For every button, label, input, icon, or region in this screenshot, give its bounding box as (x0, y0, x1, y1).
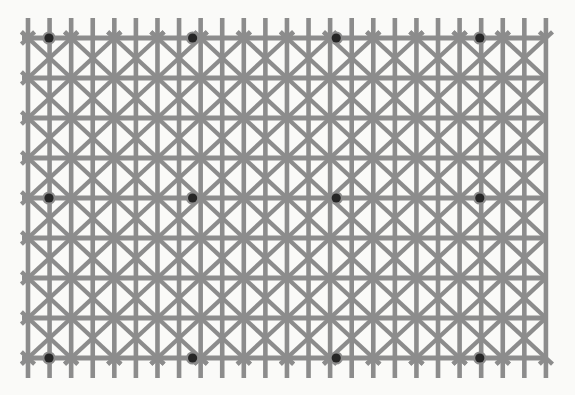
grid-dot-r1-c0 (44, 193, 53, 202)
grid-dot-r0-c2 (332, 33, 341, 42)
grid-dot-r1-c1 (188, 193, 197, 202)
grid-dot-r0-c0 (44, 33, 53, 42)
grid-dot-r2-c2 (332, 353, 341, 362)
grid-dot-r0-c1 (188, 33, 197, 42)
grid-dot-r2-c1 (188, 353, 197, 362)
grid-dot-r1-c2 (332, 193, 341, 202)
grid-dot-r2-c3 (475, 353, 484, 362)
illusion-canvas (0, 0, 575, 395)
illusion-page (0, 0, 575, 395)
grid-dot-r1-c3 (475, 193, 484, 202)
illusion-figure (0, 0, 575, 395)
grid-dot-r2-c0 (44, 353, 53, 362)
grid-dot-r0-c3 (475, 33, 484, 42)
